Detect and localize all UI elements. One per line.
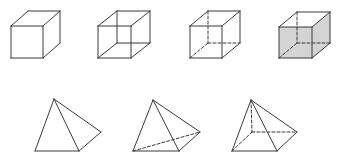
hidden-edge	[190, 43, 208, 58]
pyramid-1	[35, 99, 101, 151]
cube-4	[279, 12, 330, 58]
pyramid-2	[133, 100, 200, 151]
visible-edge	[277, 132, 297, 151]
geometry-figure-canvas	[0, 0, 337, 155]
visible-edge	[222, 11, 240, 26]
visible-edge	[43, 43, 60, 58]
visible-edge	[179, 132, 200, 151]
cube-3	[190, 11, 240, 58]
cube-1	[11, 11, 60, 58]
pyramids-row	[35, 99, 297, 151]
hidden-edge	[232, 132, 252, 151]
visible-edge	[35, 99, 54, 151]
visible-edge	[54, 99, 101, 132]
visible-edge	[131, 43, 150, 58]
visible-edge	[153, 100, 179, 151]
cubes-row	[11, 11, 330, 58]
hidden-edge	[251, 100, 252, 132]
visible-edge	[251, 100, 277, 151]
visible-edge	[131, 11, 150, 26]
visible-edge	[11, 11, 28, 26]
visible-edge	[251, 100, 297, 132]
pyramid-3	[232, 100, 297, 151]
visible-edge	[133, 100, 153, 151]
visible-edge	[54, 99, 79, 151]
visible-edge	[190, 11, 208, 26]
visible-edge	[43, 11, 60, 26]
visible-edge	[79, 132, 101, 151]
hidden-edge	[98, 43, 117, 58]
cube-2	[98, 11, 150, 58]
visible-edge	[279, 12, 297, 27]
visible-edge	[98, 11, 117, 26]
visible-edge	[153, 100, 200, 132]
visible-edge	[222, 43, 240, 58]
visible-edge	[232, 100, 251, 151]
